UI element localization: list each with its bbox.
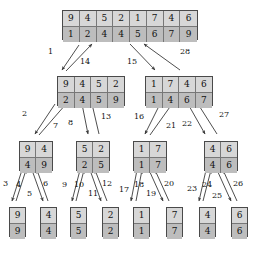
- edge-step-label: 8: [68, 119, 73, 127]
- array-cell: 9: [180, 27, 197, 42]
- array-cell: 4: [80, 11, 97, 26]
- array-row-input: 5: [71, 208, 86, 223]
- array-node: 44: [40, 207, 57, 237]
- array-cell: 9: [58, 77, 75, 92]
- array-cell: 1: [130, 11, 147, 26]
- array-cell: 5: [71, 208, 86, 223]
- array-cell: 7: [147, 11, 164, 26]
- array-cell: 4: [41, 208, 56, 223]
- array-cell: 6: [179, 93, 196, 108]
- array-row-sorted: 46: [205, 157, 237, 173]
- array-node: 99: [9, 207, 26, 237]
- array-row-input: 9452: [58, 77, 124, 92]
- array-row-input: 94: [20, 142, 52, 157]
- array-cell: 2: [93, 142, 109, 157]
- edge-step-label: 11: [88, 190, 98, 198]
- array-row-sorted: 4: [41, 223, 56, 239]
- array-row-input: 4: [200, 208, 215, 223]
- array-row-sorted: 17: [134, 157, 166, 173]
- recursion-arrow-return: [144, 44, 180, 70]
- recursion-arrow-return: [150, 104, 172, 135]
- array-node: 77: [166, 207, 183, 237]
- edge-step-label: 21: [166, 122, 176, 130]
- array-cell: 5: [91, 93, 108, 108]
- edge-step-label: 18: [134, 181, 144, 189]
- array-cell: 5: [93, 158, 109, 173]
- edge-step-label: 7: [53, 122, 58, 130]
- array-cell: 2: [103, 208, 118, 223]
- array-row-sorted: 7: [167, 223, 182, 239]
- edge-step-label: 27: [219, 111, 229, 119]
- edge-step-label: 13: [101, 113, 111, 121]
- array-cell: 7: [164, 27, 181, 42]
- array-cell: 4: [75, 77, 92, 92]
- array-cell: 5: [130, 27, 147, 42]
- array-row-input: 17: [134, 142, 166, 157]
- edge-step-label: 2: [22, 110, 27, 118]
- array-cell: 1: [134, 142, 150, 157]
- array-row-sorted: 2: [103, 223, 118, 239]
- edge-step-label: 6: [43, 180, 48, 188]
- edge-step-label: 19: [146, 190, 156, 198]
- array-cell: 1: [63, 27, 80, 42]
- array-cell: 4: [20, 158, 36, 173]
- edge-step-label: 15: [127, 58, 137, 66]
- array-cell: 6: [221, 142, 237, 157]
- array-row-sorted: 1467: [146, 92, 212, 108]
- array-node: 44: [199, 207, 216, 237]
- array-cell: 4: [200, 208, 215, 223]
- recursion-arrow-descend: [35, 104, 55, 134]
- array-cell: 5: [91, 77, 108, 92]
- array-row-sorted: 5: [71, 223, 86, 239]
- edge-step-label: 22: [182, 120, 192, 128]
- array-row-input: 1: [134, 208, 149, 223]
- array-cell: 9: [10, 208, 25, 223]
- array-node: 22: [102, 207, 119, 237]
- array-row-input: 52: [77, 142, 109, 157]
- edge-step-label: 12: [102, 180, 112, 188]
- array-cell: 2: [80, 27, 97, 42]
- edge-step-label: 4: [16, 181, 21, 189]
- array-row-sorted: 12445679: [63, 26, 197, 42]
- array-cell: 6: [180, 11, 197, 26]
- array-cell: 6: [232, 208, 247, 223]
- edge-step-label: 17: [119, 186, 129, 194]
- array-node: 11: [133, 207, 150, 237]
- recursion-arrow-return: [39, 104, 66, 135]
- array-cell: 9: [108, 93, 124, 108]
- array-cell: 4: [200, 224, 215, 239]
- array-cell: 1: [134, 208, 149, 223]
- array-node: 17461467: [145, 76, 213, 106]
- array-row-sorted: 4: [200, 223, 215, 239]
- edge-step-label: 1: [48, 48, 53, 56]
- array-cell: 7: [150, 142, 166, 157]
- edges-group: [12, 44, 237, 201]
- array-row-input: 7: [167, 208, 182, 223]
- array-node: 9452174612445679: [62, 10, 198, 40]
- array-row-sorted: 9: [10, 223, 25, 239]
- array-row-input: 1746: [146, 77, 212, 92]
- edge-step-label: 3: [3, 180, 8, 188]
- merge-sort-recursion-diagram: 9452174612445679945224591746146794495225…: [0, 0, 259, 254]
- array-node: 9449: [19, 141, 53, 171]
- array-cell: 2: [77, 158, 93, 173]
- array-cell: 4: [205, 158, 221, 173]
- array-node: 4646: [204, 141, 238, 171]
- edge-step-label: 9: [62, 181, 67, 189]
- array-node: 5225: [76, 141, 110, 171]
- edge-step-label: 25: [212, 192, 222, 200]
- array-cell: 2: [113, 11, 130, 26]
- recursion-arrow-descend: [145, 104, 160, 134]
- array-cell: 2: [103, 224, 118, 239]
- edge-step-label: 28: [180, 48, 190, 56]
- recursion-arrow-return: [198, 104, 217, 134]
- array-node: 1717: [133, 141, 167, 171]
- array-cell: 4: [164, 11, 181, 26]
- array-row-sorted: 1: [134, 223, 149, 239]
- edge-step-label: 20: [164, 180, 174, 188]
- array-cell: 1: [134, 224, 149, 239]
- array-cell: 7: [163, 77, 180, 92]
- array-cell: 1: [146, 77, 163, 92]
- array-cell: 4: [97, 27, 114, 42]
- array-cell: 9: [20, 142, 36, 157]
